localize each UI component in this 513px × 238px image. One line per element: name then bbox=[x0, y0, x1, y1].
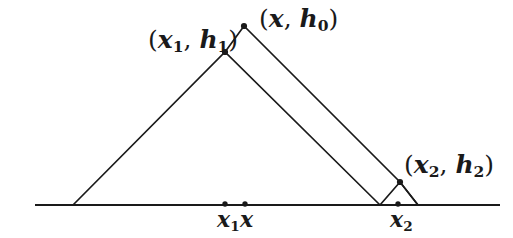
axis-label-x1-var: x bbox=[217, 206, 230, 232]
tent-0-polyline bbox=[225, 26, 418, 205]
x2-h2-dot bbox=[397, 179, 403, 185]
axis-label-x1: x1 bbox=[217, 208, 240, 233]
axis-label-x2: x2 bbox=[390, 208, 413, 233]
label-x-h0-comma: , bbox=[284, 4, 300, 33]
label-x-h0-open-paren: ( bbox=[259, 4, 269, 33]
label-x1-h1-sub-1: 1 bbox=[173, 37, 184, 56]
label-x2-h2-var-x: x bbox=[414, 150, 429, 179]
label-x2-h2-sub-1: 2 bbox=[429, 162, 440, 181]
axis-label-x2-var: x bbox=[390, 206, 403, 232]
label-x-h0-close-paren: ) bbox=[329, 4, 339, 33]
x-h0-dot bbox=[241, 23, 247, 29]
label-x1-h1-close-paren: ) bbox=[228, 25, 238, 54]
label-x-h0-var-h: h bbox=[300, 4, 318, 33]
label-x1-h1: (x1, h1) bbox=[148, 27, 238, 55]
label-x-h0-var-x: x bbox=[269, 4, 284, 33]
label-x2-h2-comma: , bbox=[439, 150, 455, 179]
axis-label-x-var: x bbox=[240, 206, 253, 232]
label-x2-h2-close-paren: ) bbox=[484, 150, 494, 179]
vertex-dots-group bbox=[222, 23, 403, 185]
label-x2-h2-var-h: h bbox=[455, 150, 473, 179]
label-x1-h1-var-h: h bbox=[199, 25, 217, 54]
label-x1-h1-sub-2: 1 bbox=[218, 37, 229, 56]
axis-label-x2-sub: 2 bbox=[403, 218, 412, 234]
label-x2-h2: (x2, h2) bbox=[404, 152, 494, 180]
label-x-h0: (x, h0) bbox=[259, 6, 338, 34]
tent-1-polyline bbox=[73, 52, 380, 205]
label-x1-h1-comma: , bbox=[183, 25, 199, 54]
figure-drawing bbox=[0, 0, 513, 238]
label-x2-h2-open-paren: ( bbox=[404, 150, 414, 179]
label-x2-h2-sub-2: 2 bbox=[474, 162, 485, 181]
label-x1-h1-open-paren: ( bbox=[148, 25, 158, 54]
label-x-h0-sub-0: 0 bbox=[318, 16, 329, 35]
figure-canvas: (x1, h1) (x, h0) (x2, h2) x1 x x2 bbox=[0, 0, 513, 238]
axis-label-x1-sub: 1 bbox=[230, 218, 239, 234]
label-x1-h1-var-x: x bbox=[158, 25, 173, 54]
axis-label-x: x bbox=[240, 208, 253, 231]
